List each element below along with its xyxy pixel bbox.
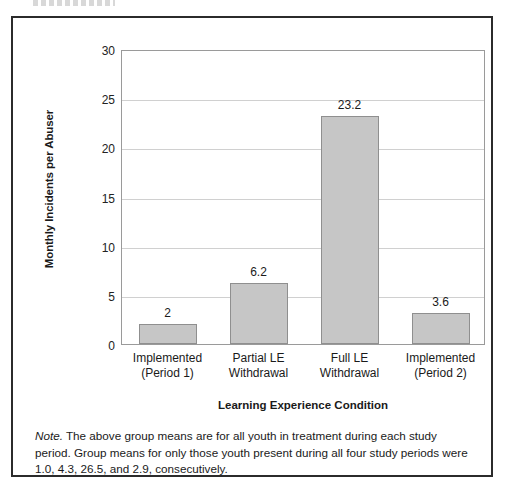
figure-frame: Monthly Incidents per Abuser 05101520253… <box>11 16 493 477</box>
gridline <box>122 248 484 249</box>
y-axis-tick-label: 30 <box>102 44 115 58</box>
x-axis-tick-line: Withdrawal <box>320 366 379 381</box>
x-axis-tick-line: Implemented <box>406 351 475 366</box>
x-axis-tick-line: Implemented <box>133 351 202 366</box>
x-axis-tick-label: Implemented(Period 2) <box>406 351 475 381</box>
gridline <box>122 149 484 150</box>
x-axis-tick-label: Implemented(Period 1) <box>133 351 202 381</box>
bar: 3.6Implemented(Period 2) <box>412 313 470 344</box>
y-axis-tick-label: 20 <box>102 142 115 156</box>
figure-note: Note. The above group means are for all … <box>35 428 475 478</box>
note-body: The above group means are for all youth … <box>35 429 468 475</box>
x-axis-tick-line: (Period 1) <box>133 366 202 381</box>
x-axis-tick-line: (Period 2) <box>406 366 475 381</box>
y-axis-title: Monthly Incidents per Abuser <box>43 89 55 289</box>
y-axis-tick-label: 5 <box>108 290 115 304</box>
bar-value-label: 3.6 <box>432 295 449 309</box>
bar: 2Implemented(Period 1) <box>139 324 197 344</box>
bar-value-label: 6.2 <box>250 265 267 279</box>
bar: 23.2Full LEWithdrawal <box>321 116 379 344</box>
bar: 6.2Partial LEWithdrawal <box>230 283 288 344</box>
bar-value-label: 2 <box>164 306 171 320</box>
x-axis-tick-label: Partial LEWithdrawal <box>229 351 288 381</box>
y-axis-tick-label: 0 <box>108 339 115 353</box>
x-axis-tick-line: Withdrawal <box>229 366 288 381</box>
x-axis-tick-label: Full LEWithdrawal <box>320 351 379 381</box>
y-axis-tick-label: 25 <box>102 93 115 107</box>
plot-area: 0510152025302Implemented(Period 1)6.2Par… <box>121 50 485 345</box>
y-axis-tick-label: 15 <box>102 192 115 206</box>
y-axis-tick-label: 10 <box>102 241 115 255</box>
note-prefix: Note. <box>35 429 63 442</box>
chart-region: Monthly Incidents per Abuser 05101520253… <box>13 18 491 418</box>
cropped-header-text-sliver <box>33 0 115 6</box>
x-axis-title: Learning Experience Condition <box>121 399 485 411</box>
x-axis-tick-line: Full LE <box>320 351 379 366</box>
gridline <box>122 297 484 298</box>
gridline <box>122 199 484 200</box>
x-axis-tick-line: Partial LE <box>229 351 288 366</box>
gridline <box>122 100 484 101</box>
bar-value-label: 23.2 <box>338 98 361 112</box>
